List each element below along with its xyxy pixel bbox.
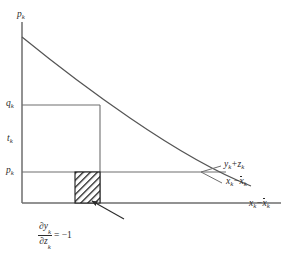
diagram-canvas [0, 0, 299, 256]
demand-curve [22, 37, 251, 186]
derivative-numerator: ∂yk [38, 222, 52, 234]
derivative-value: = −1 [54, 230, 72, 240]
level-label-p: pk [6, 166, 14, 176]
axis-right-label: xk−xk [249, 199, 270, 209]
marginal-area [75, 172, 100, 203]
curve-label-lower: xk−xk [226, 177, 247, 187]
figure-container: pk qk tk pk yk+zk xk−xk xk−xk ∂yk ∂zk = … [0, 0, 299, 256]
axis-top-label: pk [17, 10, 25, 20]
derivative-fraction: ∂yk ∂zk [38, 222, 52, 249]
partial-derivative-note: ∂yk ∂zk = −1 [38, 222, 72, 249]
curve-label-upper: yk+zk [224, 160, 244, 170]
leader-lower [201, 172, 222, 183]
level-label-q: qk [6, 99, 14, 109]
derivative-denominator: ∂zk [38, 237, 51, 249]
level-label-t: tk [7, 134, 13, 144]
